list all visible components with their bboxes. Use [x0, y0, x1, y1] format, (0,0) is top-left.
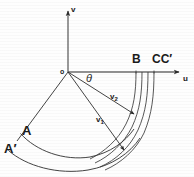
ray-velocity-v2 — [68, 72, 134, 114]
point-A-label: A — [22, 124, 31, 137]
blade-curve-4 — [105, 72, 154, 170]
point-CC-prime-label: CC′ — [152, 53, 172, 65]
velocity-v1-subscript: 1 — [100, 119, 103, 125]
point-B-label: B — [132, 53, 141, 65]
velocity-v2-label: v2 — [110, 93, 118, 101]
blade-curve-3 — [100, 72, 148, 167]
diagram-svg — [0, 0, 194, 177]
velocity-v1-label: v1 — [96, 116, 104, 124]
u-axis-label: u — [183, 75, 188, 83]
v-axis-label: v — [71, 6, 75, 14]
point-A-prime-label: A′ — [4, 142, 17, 155]
origin-label: o — [60, 68, 64, 75]
theta-angle-label: θ — [86, 73, 92, 84]
figure-canvas: v u o θ A A′ B CC′ v2 v1 — [0, 0, 194, 177]
ray-velocity-v1 — [68, 72, 124, 150]
velocity-v2-subscript: 2 — [114, 96, 117, 102]
outer-arc-through-A-prime — [9, 138, 141, 171]
inner-arc-through-A — [21, 129, 135, 158]
